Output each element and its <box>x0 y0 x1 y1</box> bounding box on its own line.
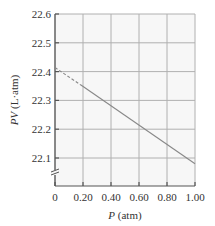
x-axis-var: P <box>107 209 115 221</box>
y-axis-var: PV <box>8 110 20 126</box>
plot-area <box>51 14 195 186</box>
y-axis-label: PV (L·atm) <box>8 74 21 126</box>
y-axis-unit: (L·atm) <box>8 74 21 109</box>
y-tick-label: 22.4 <box>32 66 52 78</box>
x-tick-label: 0.40 <box>101 191 121 203</box>
y-tick-labels: 22.122.222.322.422.522.6 <box>32 8 52 164</box>
y-tick-label: 22.1 <box>32 152 51 164</box>
y-tick-label: 22.3 <box>32 94 52 106</box>
x-tick-label: 0 <box>52 191 58 203</box>
x-tick-labels: 00.200.400.600.801.00 <box>52 191 205 203</box>
y-tick-label: 22.5 <box>32 37 52 49</box>
y-tick-label: 22.2 <box>32 123 51 135</box>
chart: 00.200.400.600.801.00 22.122.222.322.422… <box>0 0 215 226</box>
x-tick-label: 0.60 <box>129 191 149 203</box>
x-tick-label: 0.20 <box>73 191 93 203</box>
x-tick-label: 1.00 <box>185 191 205 203</box>
x-tick-label: 0.80 <box>157 191 177 203</box>
y-tick-label: 22.6 <box>32 8 52 20</box>
x-axis-unit: (atm) <box>118 209 142 222</box>
x-axis-label: P (atm) <box>107 209 142 222</box>
